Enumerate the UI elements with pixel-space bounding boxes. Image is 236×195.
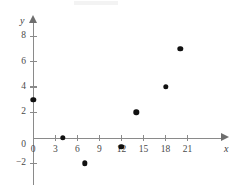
x-tick-label: 6: [75, 145, 80, 155]
y-tick: [30, 36, 37, 37]
data-point: [133, 110, 138, 115]
x-tick-label: 9: [97, 145, 102, 155]
x-tick: [165, 135, 166, 141]
y-tick: [30, 163, 37, 164]
y-tick-label: −2: [0, 159, 26, 169]
x-tick: [77, 135, 78, 141]
data-point: [82, 161, 87, 166]
scatter-plot: x y 036912151821 −202468: [0, 0, 236, 195]
y-tick: [30, 112, 37, 113]
x-axis-label: x: [224, 144, 228, 154]
x-tick: [187, 135, 188, 141]
x-tick-label: 18: [161, 145, 171, 155]
y-tick-label: 2: [0, 108, 26, 118]
x-tick: [99, 135, 100, 141]
y-tick: [30, 61, 37, 62]
y-tick: [30, 86, 37, 87]
y-tick-label: 4: [0, 82, 26, 92]
x-tick: [55, 135, 56, 141]
y-tick-label: 8: [0, 31, 26, 41]
data-point: [178, 46, 183, 51]
data-point: [30, 97, 35, 102]
x-tick: [143, 135, 144, 141]
x-tick-label: 3: [53, 145, 58, 155]
scan-artifact: [74, 1, 118, 5]
data-point: [60, 135, 65, 140]
x-tick: [121, 135, 122, 141]
x-tick-label: 21: [183, 145, 193, 155]
x-axis-arrow-icon: [221, 133, 229, 141]
y-axis-label: y: [20, 16, 24, 26]
x-tick-label: 15: [139, 145, 149, 155]
y-tick-label: 0: [0, 140, 26, 150]
y-tick-label: 6: [0, 57, 26, 67]
x-tick-label: 0: [31, 145, 36, 155]
y-axis-arrow-icon: [29, 15, 37, 23]
y-axis-line: [33, 22, 34, 185]
data-point: [163, 84, 168, 89]
